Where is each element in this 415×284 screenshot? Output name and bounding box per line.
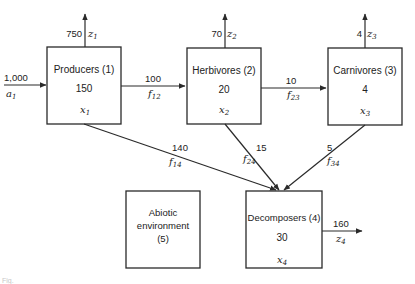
flow-value-f34: 5 — [327, 142, 332, 153]
flow-arrow-f12: 100 f12 — [121, 73, 185, 101]
flow-var-f23: f23 — [286, 89, 300, 102]
output-arrow-z3: 4 z3 — [357, 14, 378, 48]
compartment-abiotic-environment: Abiotic environment (5) — [126, 191, 200, 268]
flow-var-f34: f34 — [326, 155, 340, 168]
flow-var-f14: f14 — [168, 156, 182, 169]
abiotic-label-line1: Abiotic — [149, 207, 178, 218]
abiotic-label-line3: (5) — [157, 233, 169, 244]
abiotic-label-line2: environment — [137, 220, 190, 231]
flow-arrow-f24: 15 f24 — [225, 124, 279, 190]
output-value-z3: 4 — [357, 28, 362, 39]
output-var-z2: z2 — [226, 28, 237, 41]
output-arrow-z2: 70 z2 — [211, 14, 237, 48]
flow-var-f24: f24 — [242, 153, 256, 166]
carnivores-label: Carnivores (3) — [333, 65, 396, 76]
output-var-z4: z4 — [335, 233, 346, 246]
input-arrow-a1: 1,000 a1 — [4, 72, 46, 101]
flow-arrow-f34: 5 f34 — [284, 125, 365, 190]
flow-value-f12: 100 — [145, 73, 161, 84]
compartment-carnivores: Carnivores (3) 4 x3 — [328, 48, 402, 125]
herbivores-value: 20 — [218, 84, 230, 95]
output-var-z3: z3 — [366, 28, 377, 41]
compartment-decomposers: Decomposers (4) 30 x4 — [246, 191, 322, 268]
output-arrow-z1: 750 z1 — [66, 14, 98, 47]
flow-arrow-f14: 140 f14 — [84, 124, 276, 190]
compartment-herbivores: Herbivores (2) 20 x2 — [187, 48, 261, 124]
decomposers-label: Decomposers (4) — [248, 212, 321, 223]
compartment-producers: Producers (1) 150 x1 — [47, 47, 121, 124]
producers-label: Producers (1) — [54, 64, 115, 75]
flow-arrow-f23: 10 f23 — [261, 75, 326, 102]
ecosystem-flow-diagram: 1,000 a1 Producers (1) 150 x1 750 z1 100… — [0, 0, 415, 284]
producers-value: 150 — [76, 83, 93, 94]
flow-value-f23: 10 — [286, 75, 297, 86]
herbivores-label: Herbivores (2) — [192, 65, 255, 76]
flow-value-f24: 15 — [256, 142, 267, 153]
input-value-a1: 1,000 — [4, 72, 28, 83]
output-value-z4: 160 — [333, 218, 349, 229]
output-value-z1: 750 — [66, 28, 82, 39]
figure-caption: Fig. — [2, 277, 14, 284]
input-var-a1: a1 — [6, 88, 16, 101]
output-value-z2: 70 — [211, 28, 222, 39]
decomposers-value: 30 — [276, 232, 288, 243]
output-arrow-z4: 160 z4 — [322, 218, 362, 246]
flow-value-f14: 140 — [172, 142, 188, 153]
carnivores-value: 4 — [362, 84, 368, 95]
flow-var-f12: f12 — [147, 88, 161, 101]
output-var-z1: z1 — [87, 28, 98, 41]
